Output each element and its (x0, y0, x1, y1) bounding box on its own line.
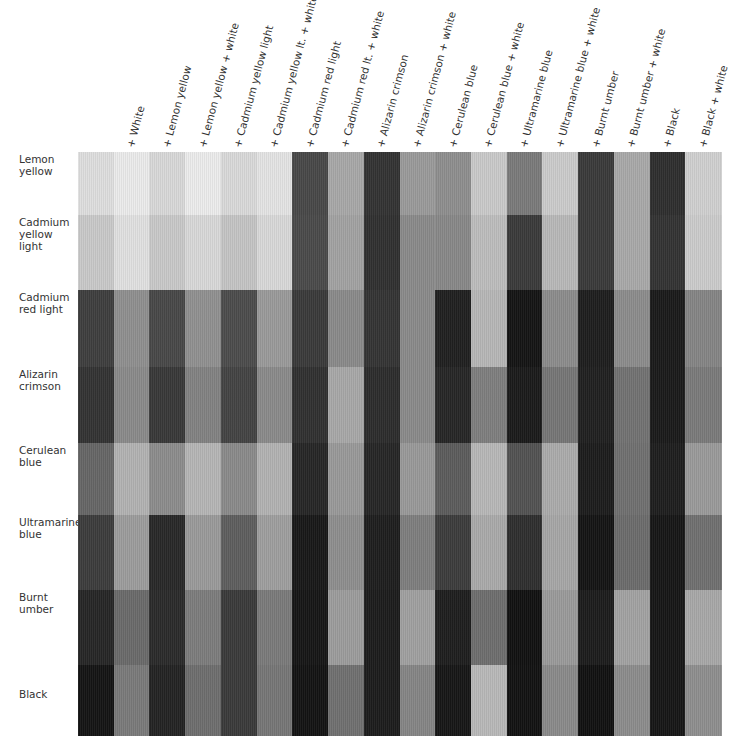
swatch-cell (400, 290, 436, 368)
swatch-cell (578, 290, 614, 368)
swatch-cell (578, 152, 614, 216)
swatch-cell (685, 290, 721, 368)
column-label: + Cadmium yellow light (232, 24, 275, 148)
swatch-cell (221, 152, 257, 216)
swatch-cell (507, 152, 543, 216)
swatch-cell (257, 443, 293, 516)
row-label-line: Cerulean (19, 444, 79, 456)
swatch-cell (650, 152, 686, 216)
swatch-cell (221, 443, 257, 516)
swatch-cell (650, 290, 686, 368)
row-label-line: Burnt (19, 591, 79, 603)
swatch-cell (614, 665, 650, 736)
swatch-cell (114, 367, 150, 444)
row-label-line: yellow light (19, 228, 79, 252)
row-label: Ceruleanblue (19, 444, 79, 468)
swatch-cell (292, 215, 328, 291)
swatch-grid (78, 152, 721, 735)
swatch-cell (507, 590, 543, 666)
swatch-cell (328, 665, 364, 736)
swatch-cell (292, 290, 328, 368)
swatch-cell (507, 515, 543, 591)
swatch-cell (328, 290, 364, 368)
swatch-cell (221, 290, 257, 368)
swatch-cell (221, 215, 257, 291)
swatch-cell (292, 590, 328, 666)
swatch-cell (328, 590, 364, 666)
swatch-cell (685, 665, 721, 736)
swatch-cell (650, 515, 686, 591)
swatch-cell (435, 515, 471, 591)
column-label: + Burnt umber (590, 70, 620, 149)
swatch-cell (114, 290, 150, 368)
row-label-line: blue (19, 456, 79, 468)
swatch-cell (257, 152, 293, 216)
swatch-cell (507, 665, 543, 736)
swatch-cell (149, 290, 185, 368)
swatch-cell (471, 443, 507, 516)
swatch-cell (78, 665, 114, 736)
column-label: + Cerulean blue + white (482, 21, 526, 149)
row-label: Ultramarineblue (19, 516, 79, 540)
swatch-cell (471, 367, 507, 444)
swatch-cell (542, 152, 578, 216)
swatch-cell (435, 590, 471, 666)
swatch-cell (328, 515, 364, 591)
column-label: + Lemon yellow (161, 64, 193, 148)
swatch-cell (614, 443, 650, 516)
swatch-cell (542, 215, 578, 291)
column-label: + Cerulean blue (447, 64, 479, 149)
swatch-cell (685, 367, 721, 444)
swatch-cell (685, 515, 721, 591)
swatch-cell (614, 515, 650, 591)
row-label: Cadmiumred light (19, 291, 79, 315)
swatch-cell (292, 152, 328, 216)
swatch-cell (471, 590, 507, 666)
swatch-cell (650, 665, 686, 736)
swatch-cell (185, 665, 221, 736)
swatch-cell (78, 215, 114, 291)
swatch-cell (78, 590, 114, 666)
swatch-cell (114, 590, 150, 666)
row-label-line: Ultramarine (19, 516, 79, 528)
swatch-cell (542, 443, 578, 516)
column-label: + Cadmium red light (304, 40, 343, 149)
swatch-cell (328, 443, 364, 516)
swatch-cell (614, 290, 650, 368)
swatch-cell (650, 443, 686, 516)
column-label: + Ultramarine blue (518, 49, 554, 149)
swatch-cell (400, 152, 436, 216)
swatch-cell (614, 367, 650, 444)
swatch-cell (685, 590, 721, 666)
swatch-cell (328, 152, 364, 216)
swatch-cell (364, 443, 400, 516)
swatch-cell (328, 367, 364, 444)
swatch-cell (364, 152, 400, 216)
row-label: Lemonyellow (19, 153, 79, 177)
swatch-cell (614, 590, 650, 666)
swatch-cell (114, 515, 150, 591)
swatch-cell (542, 515, 578, 591)
swatch-cell (364, 215, 400, 291)
swatch-cell (435, 665, 471, 736)
swatch-cell (114, 665, 150, 736)
swatch-cell (614, 152, 650, 216)
paint-mixture-value-chart: + White+ Lemon yellow+ Lemon yellow + wh… (0, 0, 740, 747)
swatch-cell (185, 590, 221, 666)
column-label: + White (125, 105, 146, 149)
swatch-cell (149, 367, 185, 444)
row-label-line: Lemon (19, 153, 79, 165)
swatch-cell (507, 290, 543, 368)
row-label-line: red light (19, 303, 79, 315)
swatch-cell (685, 443, 721, 516)
swatch-cell (114, 152, 150, 216)
swatch-cell (78, 515, 114, 591)
swatch-cell (471, 215, 507, 291)
row-label: Black (19, 688, 79, 700)
swatch-cell (542, 665, 578, 736)
swatch-cell (542, 290, 578, 368)
swatch-cell (185, 290, 221, 368)
swatch-cell (257, 665, 293, 736)
swatch-cell (400, 515, 436, 591)
swatch-cell (328, 215, 364, 291)
